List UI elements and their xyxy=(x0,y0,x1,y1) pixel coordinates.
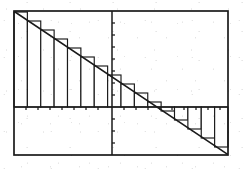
riemann-rectangle-negative xyxy=(215,107,228,147)
riemann-rectangle-negative xyxy=(175,107,188,120)
riemann-sum-figure xyxy=(0,0,244,169)
riemann-rectangle-positive xyxy=(27,21,40,107)
riemann-rectangle-positive xyxy=(108,75,121,107)
riemann-rectangle-positive xyxy=(14,12,27,107)
riemann-rectangle-positive xyxy=(54,39,67,107)
riemann-rectangle-positive xyxy=(68,48,81,107)
riemann-rectangle-negative xyxy=(201,107,214,138)
figure-root xyxy=(0,0,244,169)
riemann-rectangle-negative xyxy=(188,107,201,129)
riemann-rectangle-positive xyxy=(41,30,54,107)
